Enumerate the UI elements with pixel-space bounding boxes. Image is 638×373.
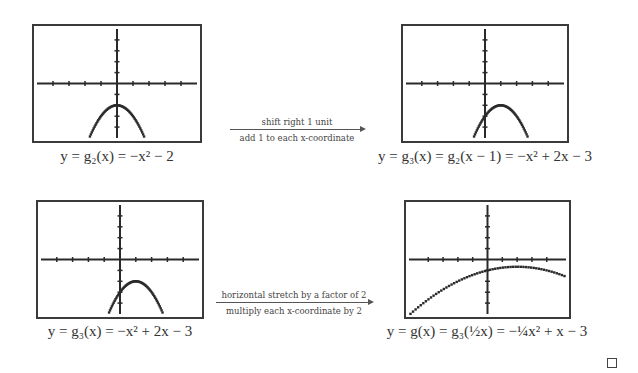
curve-point bbox=[142, 133, 144, 135]
curve-point bbox=[522, 266, 524, 268]
curve-point bbox=[414, 308, 416, 310]
curve-point bbox=[540, 268, 542, 270]
curve-point bbox=[497, 267, 499, 269]
curve-point bbox=[491, 268, 493, 270]
curve-point bbox=[143, 135, 145, 137]
curve-point bbox=[455, 281, 457, 283]
curve-point bbox=[515, 266, 517, 268]
graph-g2-svg bbox=[34, 26, 200, 141]
curve-point bbox=[502, 266, 504, 268]
caption-g3-shifted: y = g₃(x) = g₂(x − 1) = −x² + 2x − 3 bbox=[355, 148, 615, 165]
curve-point bbox=[561, 274, 563, 276]
graph-g3-shifted-svg bbox=[403, 26, 567, 141]
curve-point bbox=[445, 286, 447, 288]
curve-point bbox=[417, 306, 419, 308]
graph-g2 bbox=[32, 24, 202, 143]
curve-point bbox=[422, 302, 424, 304]
curve-point bbox=[453, 282, 455, 284]
curve-point bbox=[527, 266, 529, 268]
curve-point bbox=[161, 311, 163, 313]
curve-point bbox=[550, 271, 552, 273]
curve-point bbox=[463, 277, 465, 279]
graph-g3 bbox=[36, 200, 204, 319]
transform-stretch-label: horizontal stretch by a factor of 2 bbox=[214, 290, 374, 302]
transform-arrow-stretch: horizontal stretch by a factor of 2 mult… bbox=[214, 290, 374, 316]
curve-point bbox=[553, 271, 555, 273]
curve-point bbox=[430, 296, 432, 298]
curve-point bbox=[473, 135, 475, 137]
curve-point bbox=[556, 272, 558, 274]
curve-point bbox=[461, 278, 463, 280]
curve-point bbox=[473, 273, 475, 275]
curve-point bbox=[466, 276, 468, 278]
curve-point bbox=[563, 275, 565, 277]
curve-point bbox=[448, 285, 450, 287]
graph-g bbox=[404, 200, 571, 319]
curve-point bbox=[471, 274, 473, 276]
caption-g: y = g(x) = g₃(½x) = −¼x² + x − 3 bbox=[362, 323, 612, 340]
curve-point bbox=[450, 283, 452, 285]
curve-point bbox=[435, 293, 437, 295]
curve-point bbox=[160, 309, 162, 311]
transform-shift-label: shift right 1 unit bbox=[228, 117, 366, 129]
curve-point bbox=[484, 270, 486, 272]
curve-point bbox=[545, 269, 547, 271]
curve-point bbox=[443, 288, 445, 290]
curve-point bbox=[526, 135, 528, 137]
curve-point bbox=[108, 311, 110, 313]
curve-point bbox=[525, 133, 527, 135]
curve-point bbox=[509, 266, 511, 268]
graph-g3-shifted bbox=[401, 24, 569, 143]
curve-point bbox=[517, 266, 519, 268]
curve-point bbox=[504, 266, 506, 268]
curve-point bbox=[432, 294, 434, 296]
curve-point bbox=[425, 300, 427, 302]
caption-g3: y = g₃(x) = −x² + 2x − 3 bbox=[30, 323, 210, 340]
curve-point bbox=[489, 269, 491, 271]
curve-point bbox=[530, 266, 532, 268]
curve-point bbox=[525, 266, 527, 268]
graph-g-svg bbox=[406, 202, 569, 317]
curve-point bbox=[533, 267, 535, 269]
curve-point bbox=[458, 279, 460, 281]
right-arrow-icon bbox=[216, 302, 372, 303]
curve-point bbox=[409, 313, 411, 315]
curve-point bbox=[520, 266, 522, 268]
curve-point bbox=[438, 291, 440, 293]
transform-shift-detail: add 1 to each x-coordinate bbox=[228, 130, 366, 143]
curve-point bbox=[535, 267, 537, 269]
curve-point bbox=[486, 269, 488, 271]
transform-arrow-shift: shift right 1 unit add 1 to each x-coord… bbox=[228, 117, 366, 143]
curve-point bbox=[420, 304, 422, 306]
curve-point bbox=[412, 310, 414, 312]
curve-point bbox=[558, 273, 560, 275]
curve-point bbox=[548, 270, 550, 272]
qed-square-icon bbox=[607, 358, 617, 368]
curve-point bbox=[479, 271, 481, 273]
curve-point bbox=[481, 271, 483, 273]
caption-g2: y = g₂(x) = −x² − 2 bbox=[32, 148, 202, 165]
graph-g3-svg bbox=[38, 202, 202, 317]
curve-point bbox=[427, 298, 429, 300]
curve-point bbox=[476, 272, 478, 274]
curve-point bbox=[494, 268, 496, 270]
curve-point bbox=[512, 266, 514, 268]
curve-point bbox=[499, 267, 501, 269]
right-arrow-icon bbox=[230, 129, 364, 130]
curve-point bbox=[543, 269, 545, 271]
curve-point bbox=[468, 275, 470, 277]
curve-point bbox=[507, 266, 509, 268]
transform-stretch-detail: multiply each x-coordinate by 2 bbox=[214, 303, 374, 316]
curve-point bbox=[538, 268, 540, 270]
curve-point bbox=[440, 289, 442, 291]
curve-point bbox=[89, 135, 91, 137]
